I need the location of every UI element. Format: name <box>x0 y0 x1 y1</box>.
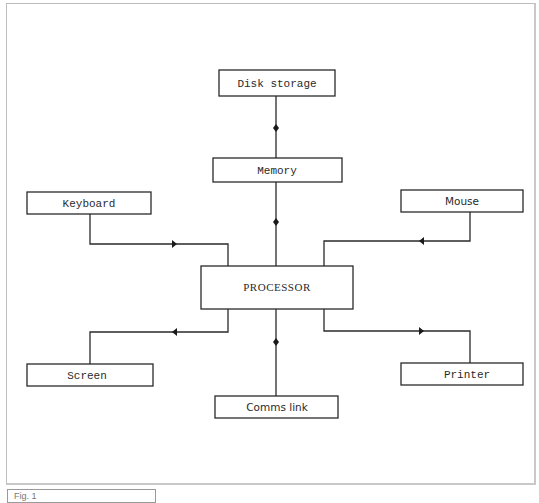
node-label: PROCESSOR <box>243 281 311 293</box>
edge-processor-printer <box>324 309 470 363</box>
arrow-left-icon <box>419 237 424 245</box>
diamond-marker-disk-memory <box>273 124 279 132</box>
node-printer[interactable]: Printer <box>401 363 523 385</box>
caption-text: Fig. 1 <box>14 491 37 501</box>
edge-mouse-processor <box>324 212 470 266</box>
markers <box>172 124 424 346</box>
caption-box: Fig. 1 <box>7 489 156 503</box>
node-label: Memory <box>257 165 297 177</box>
node-processor[interactable]: PROCESSOR <box>201 266 353 309</box>
edges <box>90 96 470 396</box>
node-comms-link[interactable]: Comms link <box>215 396 338 418</box>
node-label: Mouse <box>445 195 479 207</box>
node-label: Screen <box>67 370 107 382</box>
node-disk-storage[interactable]: Disk storage <box>219 70 335 96</box>
node-mouse[interactable]: Mouse <box>401 190 523 212</box>
node-label: Disk storage <box>237 78 316 90</box>
arrow-right-icon <box>419 327 424 335</box>
diamond-marker-processor-comms <box>273 338 279 346</box>
edge-processor-screen <box>90 309 228 364</box>
node-screen[interactable]: Screen <box>27 364 153 386</box>
node-memory[interactable]: Memory <box>213 158 342 182</box>
arrow-right-icon <box>172 240 177 248</box>
node-label: Printer <box>444 369 490 381</box>
edge-keyboard-processor <box>90 214 228 266</box>
node-label: Keyboard <box>63 198 116 210</box>
node-keyboard[interactable]: Keyboard <box>27 192 151 214</box>
arrow-left-icon <box>172 328 177 336</box>
node-label: Comms link <box>246 401 309 413</box>
diamond-marker-memory-processor <box>273 218 279 226</box>
